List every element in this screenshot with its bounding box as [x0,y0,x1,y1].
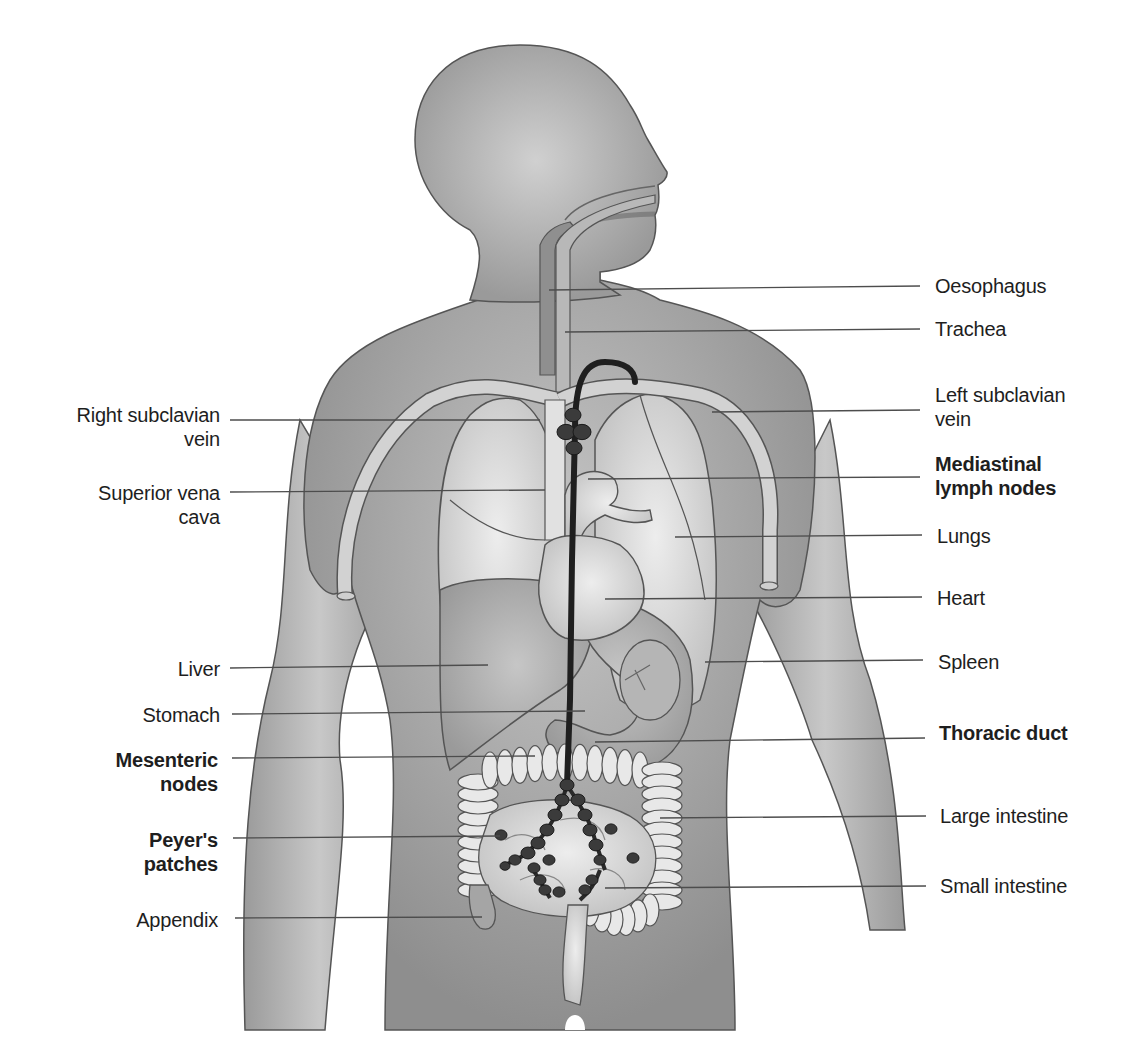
lymph-node [579,885,591,895]
colon-segment [497,750,513,786]
left-vein-end [760,582,778,590]
colon-segment [542,744,558,780]
anatomy-diagram: Right subclavian vein Superior vena cava… [0,0,1136,1051]
lymph-node [548,809,562,821]
lymph-node [605,824,617,834]
lymph-node [553,887,565,897]
lymph-node [495,830,507,840]
right-vein-end [337,592,355,600]
lymph-node [521,847,535,859]
colon-segment [602,747,618,783]
label-left-subclavian-vein: Left subclavian vein [935,383,1135,431]
lymph-node [500,862,510,871]
lymph-node [573,424,591,439]
label-stomach: Stomach [20,703,220,727]
colon-segment [527,746,543,782]
colon-segment [512,747,528,783]
lymph-node [539,885,551,895]
lymph-node [540,824,554,836]
lymph-node [594,855,606,865]
lymph-node [531,837,545,849]
lymph-node [566,441,582,455]
label-lungs: Lungs [937,524,1136,548]
lymph-node [555,794,569,806]
label-superior-vena-cava: Superior vena cava [20,481,220,529]
label-mediastinal-lymph-nodes: Mediastinal lymph nodes [935,452,1135,500]
lymph-node [583,824,597,836]
lymph-node [509,855,521,865]
lymph-node [534,875,546,885]
lymph-node [586,875,598,885]
lymph-node [560,779,574,791]
colon-segment [572,744,588,780]
lymph-node [571,794,585,806]
label-liver: Liver [20,657,220,681]
colon-segment [482,752,498,788]
label-thoracic-duct: Thoracic duct [939,721,1136,745]
lymph-node [589,839,603,851]
label-spleen: Spleen [938,650,1136,674]
lymph-node [627,853,639,863]
label-small-intestine: Small intestine [940,874,1136,898]
label-appendix: Appendix [20,908,218,932]
colon-segment [617,750,633,786]
label-trachea: Trachea [935,317,1135,341]
label-mesenteric-nodes: Mesenteric nodes [20,748,218,796]
superior-vena-cava-tube [545,400,565,540]
spleen-organ [620,640,680,720]
label-right-subclavian-vein: Right subclavian vein [20,403,220,451]
label-peyers-patches: Peyer's patches [20,828,218,876]
label-large-intestine: Large intestine [940,804,1136,828]
colon-segment [587,746,603,782]
lymph-node [557,424,575,439]
lymph-node [528,863,540,873]
label-oesophagus: Oesophagus [935,274,1135,298]
lymph-node [565,408,581,422]
lymph-node [543,855,555,865]
label-heart: Heart [937,586,1136,610]
lymph-node [578,809,592,821]
